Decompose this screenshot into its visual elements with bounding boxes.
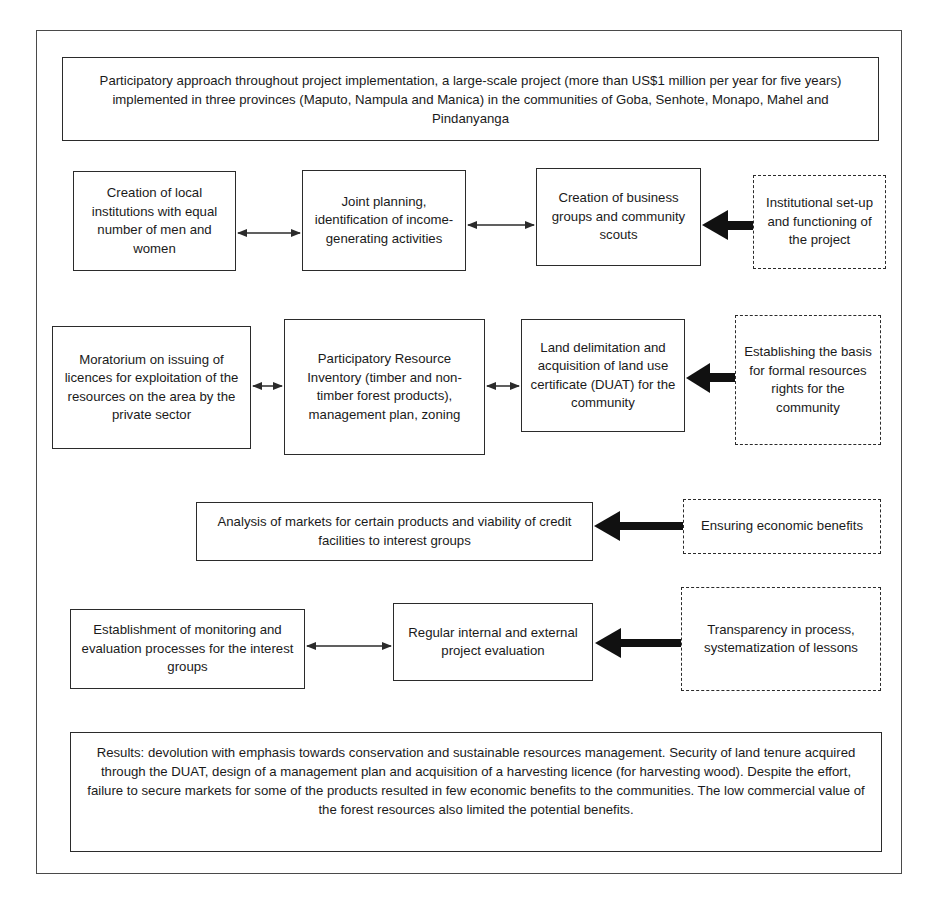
activity-box-resource-inventory: Participatory Resource Inventory (timber… <box>284 319 485 455</box>
activity-text: Creation of business groups and communit… <box>543 189 694 245</box>
activity-box-joint-planning: Joint planning, identification of income… <box>302 170 466 271</box>
activity-text: Regular internal and external project ev… <box>400 624 586 661</box>
driver-text: Transparency in process, systematization… <box>688 621 874 658</box>
activity-box-market-analysis: Analysis of markets for certain products… <box>196 502 593 561</box>
activity-text: Moratorium on issuing of licences for ex… <box>59 351 244 425</box>
driver-box-transparency: Transparency in process, systematization… <box>681 587 881 691</box>
activity-text: Creation of local institutions with equa… <box>80 184 229 258</box>
activity-text: Joint planning, identification of income… <box>309 193 459 249</box>
driver-box-formal-rights: Establishing the basis for formal resour… <box>735 315 881 445</box>
activity-text: Analysis of markets for certain products… <box>203 513 586 550</box>
activity-box-land-delimitation: Land delimitation and acquisition of lan… <box>521 319 685 432</box>
activity-text: Participatory Resource Inventory (timber… <box>291 350 478 424</box>
activity-box-project-evaluation: Regular internal and external project ev… <box>393 603 593 681</box>
driver-text: Establishing the basis for formal resour… <box>742 343 874 417</box>
results-text: Results: devolution with emphasis toward… <box>85 743 867 819</box>
activity-box-monitoring-evaluation: Establishment of monitoring and evaluati… <box>70 609 305 689</box>
driver-box-economic-benefits: Ensuring economic benefits <box>683 499 881 554</box>
driver-text: Institutional set-up and functioning of … <box>760 194 879 250</box>
driver-box-institutional-setup: Institutional set-up and functioning of … <box>753 175 886 269</box>
activity-text: Establishment of monitoring and evaluati… <box>77 621 298 677</box>
header-box: Participatory approach throughout projec… <box>62 57 879 141</box>
driver-text: Ensuring economic benefits <box>701 517 863 536</box>
header-text: Participatory approach throughout projec… <box>81 71 860 128</box>
activity-text: Land delimitation and acquisition of lan… <box>528 339 678 413</box>
activity-box-business-groups: Creation of business groups and communit… <box>536 168 701 266</box>
results-box: Results: devolution with emphasis toward… <box>70 732 882 852</box>
activity-box-local-institutions: Creation of local institutions with equa… <box>73 171 236 271</box>
activity-box-moratorium: Moratorium on issuing of licences for ex… <box>52 326 251 449</box>
